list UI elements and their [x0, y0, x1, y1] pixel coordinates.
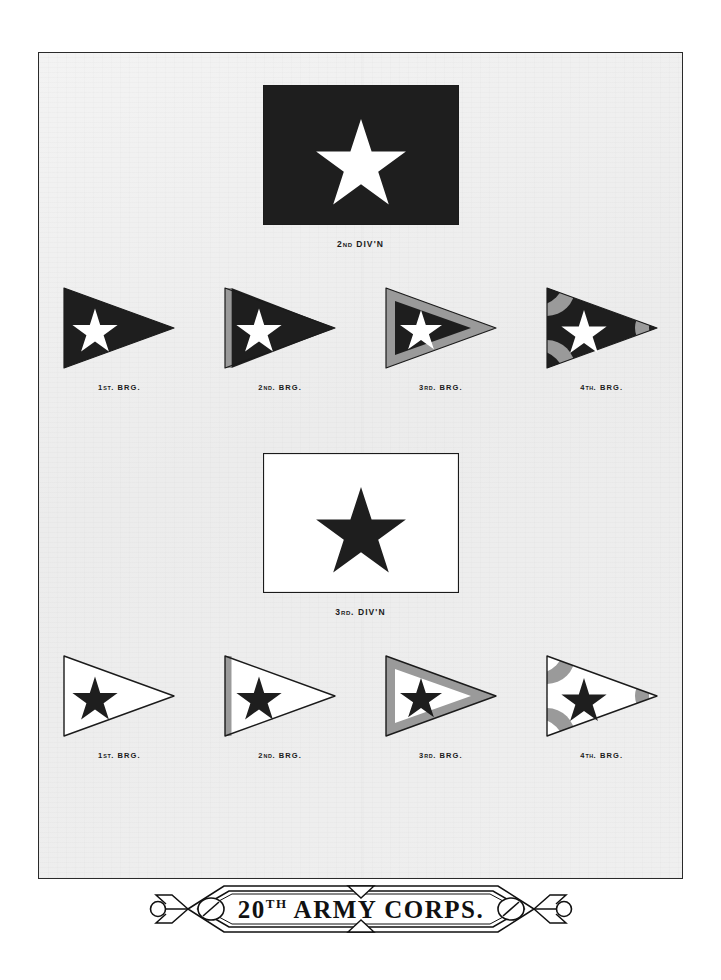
brg-rest: . BRG. — [433, 751, 463, 760]
pennant-caption-3rd-div-1st-brigade: 1ST. BRG. — [39, 751, 200, 760]
pennant-caption-2nd-div-1st-brigade: 1ST. BRG. — [39, 383, 200, 392]
pennant-3rd-div-2nd-brigade — [221, 653, 339, 739]
brigade-row-2nd-division: 1ST. BRG. 2ND. BRG. — [39, 285, 682, 392]
pennant-3rd-div-1st-brigade — [60, 653, 178, 739]
division-flag-2nd-graphic — [263, 85, 459, 225]
corps-title-banner: 20THARMY CORPS. — [0, 876, 721, 942]
plate-sheet: 2ND DIV'N 1ST. BRG. — [38, 52, 683, 879]
pennant-caption-3rd-div-3rd-brigade: 3RD. BRG. — [361, 751, 522, 760]
brg-rest: . BRG. — [272, 383, 302, 392]
pennant-2nd-div-1st-brigade — [60, 285, 178, 371]
pennant-cell-3rd-div-3rd-brigade[interactable]: 3RD. BRG. — [361, 653, 522, 760]
brg-ord: TH — [585, 753, 593, 759]
banner-left-ornament — [150, 895, 224, 923]
pennant-caption-2nd-div-2nd-brigade: 2ND. BRG. — [200, 383, 361, 392]
brg-rest: . BRG. — [111, 383, 141, 392]
pennant-caption-3rd-div-4th-brigade: 4TH. BRG. — [521, 751, 682, 760]
division-caption-2nd-rest: DIV'N — [353, 239, 384, 249]
brg-ord: ST — [103, 385, 111, 391]
pennant-2nd-div-2nd-brigade — [221, 285, 339, 371]
pennant-cell-3rd-div-1st-brigade[interactable]: 1ST. BRG. — [39, 653, 200, 760]
division-caption-3rd: 3RD. DIV'N — [263, 607, 459, 617]
brg-rest: . BRG. — [272, 751, 302, 760]
brg-rest: . BRG. — [594, 751, 624, 760]
division-row-3rd: 3RD. DIV'N — [39, 453, 682, 619]
division-row-2nd: 2ND DIV'N — [39, 85, 682, 251]
pennant-caption-2nd-div-4th-brigade: 4TH. BRG. — [521, 383, 682, 392]
brg-ord: RD — [424, 385, 433, 391]
division-flag-2nd[interactable]: 2ND DIV'N — [263, 85, 459, 249]
brg-ord: TH — [585, 385, 593, 391]
banner-right-ornament — [498, 895, 572, 923]
pennant-2nd-div-4th-brigade — [543, 285, 661, 371]
brg-rest: . BRG. — [594, 383, 624, 392]
pennant-caption-3rd-div-2nd-brigade: 2ND. BRG. — [200, 751, 361, 760]
division-caption-3rd-rest: . DIV'N — [351, 607, 386, 617]
banner-number: 20THARMY CORPS. — [237, 896, 483, 923]
division-caption-2nd-ord: ND — [343, 242, 353, 248]
division-flag-3rd-graphic — [263, 453, 459, 593]
pennant-3rd-div-3rd-brigade — [382, 653, 500, 739]
pennant-cell-2nd-div-3rd-brigade[interactable]: 3RD. BRG. — [361, 285, 522, 392]
brg-rest: . BRG. — [433, 383, 463, 392]
pennant-2nd-div-3rd-brigade — [382, 285, 500, 371]
pennant-caption-2nd-div-3rd-brigade: 3RD. BRG. — [361, 383, 522, 392]
brg-ord: ST — [103, 753, 111, 759]
corps-banner-graphic: 20THARMY CORPS. — [126, 878, 596, 940]
pennant-cell-2nd-div-4th-brigade[interactable]: 4TH. BRG. — [521, 285, 682, 392]
division-caption-3rd-ord: RD — [341, 610, 351, 616]
pennant-cell-2nd-div-1st-brigade[interactable]: 1ST. BRG. — [39, 285, 200, 392]
pennant-cell-3rd-div-2nd-brigade[interactable]: 2ND. BRG. — [200, 653, 361, 760]
brg-rest: . BRG. — [111, 751, 141, 760]
pennant-cell-2nd-div-2nd-brigade[interactable]: 2ND. BRG. — [200, 285, 361, 392]
brigade-row-3rd-division: 1ST. BRG. 2ND. BRG. — [39, 653, 682, 760]
pennant-3rd-div-4th-brigade — [543, 653, 661, 739]
brg-ord: RD — [424, 753, 433, 759]
division-caption-2nd: 2ND DIV'N — [263, 239, 459, 249]
pennant-cell-3rd-div-4th-brigade[interactable]: 4TH. BRG. — [521, 653, 682, 760]
division-flag-3rd[interactable]: 3RD. DIV'N — [263, 453, 459, 617]
